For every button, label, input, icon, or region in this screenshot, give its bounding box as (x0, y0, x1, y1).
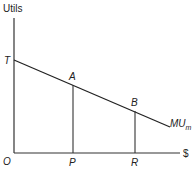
curve-label: MUm (170, 118, 192, 131)
y-axis-label: Utils (3, 3, 22, 14)
point-b-label: B (131, 97, 138, 108)
intercept-label: T (4, 55, 11, 66)
origin-label: O (3, 156, 11, 167)
point-a-label: A (68, 71, 76, 82)
x-axis-label: $ (183, 148, 189, 159)
curve-label-sub: m (186, 124, 192, 131)
curve-label-main: MU (170, 118, 186, 129)
point-p-label: P (69, 157, 76, 168)
mu-m-line (14, 60, 170, 127)
point-r-label: R (131, 157, 138, 168)
mu-diagram: Utils $ O T A B P R MUm (0, 0, 196, 174)
